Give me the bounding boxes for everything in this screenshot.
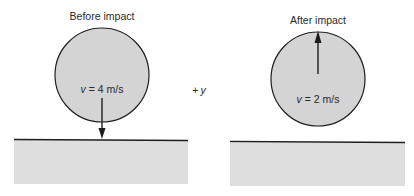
- after-velocity-label: v = 2 m/s: [297, 93, 340, 105]
- ground-before: [14, 140, 188, 184]
- ground-after: [230, 143, 405, 186]
- impact-diagram: Before impact v = 4 m/s +y After impact …: [0, 0, 414, 196]
- after-impact-panel: After impact v = 2 m/s: [230, 14, 405, 186]
- after-impact-label: After impact: [290, 14, 346, 26]
- before-velocity-label: v = 4 m/s: [81, 83, 124, 95]
- ground-surface-after: [230, 142, 405, 143]
- arrowhead-down-icon: [99, 128, 106, 139]
- positive-y-axis-label: +y: [192, 84, 206, 96]
- before-impact-label: Before impact: [70, 10, 135, 22]
- before-impact-panel: Before impact v = 4 m/s: [14, 10, 188, 184]
